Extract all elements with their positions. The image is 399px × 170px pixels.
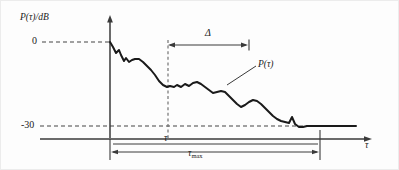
curve-label: P(τ) bbox=[258, 60, 274, 70]
taumax-dimension-label: τmax bbox=[188, 149, 203, 159]
power-delay-curve bbox=[110, 42, 356, 127]
y-tick-label-0: 0 bbox=[32, 36, 37, 46]
delta-label: Δ bbox=[205, 28, 211, 38]
taumax-arrowhead-right bbox=[312, 150, 319, 155]
taumax-arrowhead-left bbox=[111, 150, 118, 155]
taumax-subscript: max bbox=[191, 152, 202, 159]
figure-canvas bbox=[0, 0, 399, 170]
power-delay-profile-figure: P(τ)/dB 0 -30 Δ P(τ) τ τmax τ bbox=[0, 0, 399, 170]
tau-dimension-label: τ bbox=[164, 134, 167, 144]
x-axis-label: τ bbox=[365, 141, 368, 151]
delta-arrowhead-left bbox=[168, 43, 175, 48]
y-tick-label-minus30: -30 bbox=[21, 120, 34, 130]
delta-arrowhead-right bbox=[241, 43, 248, 48]
y-axis-arrowhead bbox=[107, 15, 113, 23]
ptau-leader-line bbox=[227, 66, 256, 85]
y-axis-label: P(τ)/dB bbox=[20, 13, 49, 23]
